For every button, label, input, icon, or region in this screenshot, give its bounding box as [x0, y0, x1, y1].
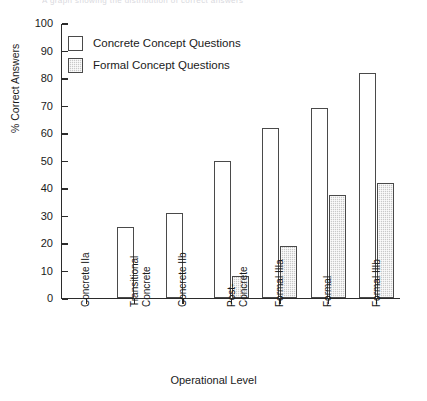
y-tick-label: 0 — [47, 292, 53, 305]
x-axis-label-2: Concrete IIb — [177, 253, 189, 307]
y-tick-mark — [62, 271, 68, 272]
bar-concrete-5 — [311, 108, 328, 298]
y-tick-mark — [62, 161, 68, 162]
y-tick-mark — [62, 243, 68, 244]
x-axis-label-5: Formal — [322, 276, 334, 307]
y-tick-mark — [62, 78, 68, 79]
y-tick-label: 70 — [41, 100, 53, 113]
x-axis-title: Operational Level — [0, 374, 427, 386]
legend-item-1: Formal Concept Questions — [68, 54, 241, 76]
legend-swatch-formal — [68, 58, 83, 73]
y-tick-mark — [62, 188, 68, 189]
x-axis-label-1: Transitional Concrete — [129, 256, 152, 307]
x-axis-label-4: Formal IIIa — [274, 259, 286, 307]
y-tick-mark — [62, 106, 68, 107]
legend-label-1: Formal Concept Questions — [93, 59, 230, 71]
y-tick-label: 50 — [41, 155, 53, 168]
y-axis-title: % Correct Answers — [9, 44, 21, 133]
y-tick-mark — [62, 216, 68, 217]
y-tick-mark — [62, 298, 68, 299]
x-axis-label-3: Post- Concrete — [226, 266, 249, 307]
chart-legend: Concrete Concept QuestionsFormal Concept… — [68, 32, 241, 76]
x-axis-label-6: Formal IIIb — [371, 259, 383, 307]
y-tick-label: 30 — [41, 210, 53, 223]
y-tick-label: 10 — [41, 265, 53, 278]
y-tick-label: 20 — [41, 237, 53, 250]
x-axis-label-0: Concrete IIa — [80, 253, 92, 307]
y-tick-mark — [62, 23, 68, 24]
clipped-header-text: A graph showing the distribution of corr… — [42, 0, 387, 5]
legend-label-0: Concrete Concept Questions — [93, 37, 241, 49]
legend-swatch-concrete — [68, 36, 83, 51]
y-tick-label: 100 — [35, 17, 53, 30]
y-tick-mark — [62, 133, 68, 134]
y-tick-label: 60 — [41, 127, 53, 140]
legend-item-0: Concrete Concept Questions — [68, 32, 241, 54]
y-tick-label: 40 — [41, 182, 53, 195]
bar-chart-figure: A graph showing the distribution of corr… — [0, 0, 427, 401]
y-tick-label: 90 — [41, 45, 53, 58]
y-tick-label: 80 — [41, 72, 53, 85]
